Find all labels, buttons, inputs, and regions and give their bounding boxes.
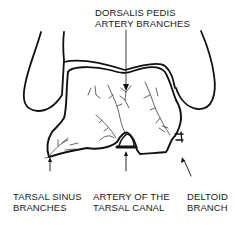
- talus-blood-supply-diagram: DORSALIS PEDIS ARTERY BRANCHES TARSAL SI…: [0, 0, 235, 228]
- talus-dome-outer: [64, 60, 175, 88]
- label-line: ARTERY OF THE: [93, 192, 170, 203]
- label-deltoid-branch: DELTOID BRANCH: [187, 192, 228, 213]
- fibula-outline: [24, 32, 64, 111]
- tibia-outline: [176, 31, 215, 109]
- leader-deltoid: [184, 160, 191, 176]
- arrow-tarsal-canal: [124, 151, 128, 156]
- label-line: TARSAL SINUS: [13, 192, 82, 203]
- label-dorsalis-pedis-artery-branches: DORSALIS PEDIS ARTERY BRANCHES: [95, 8, 190, 29]
- label-line: BRANCH: [187, 203, 228, 214]
- label-line: DORSALIS PEDIS: [95, 8, 190, 19]
- label-tarsal-sinus-branches: TARSAL SINUS BRANCHES: [13, 192, 82, 213]
- label-line: BRANCHES: [13, 203, 82, 214]
- talus-body-outline: [47, 72, 181, 157]
- label-line: DELTOID: [187, 192, 228, 203]
- talus-dome-inner: [68, 67, 176, 100]
- deltoid-branch-vessel: [175, 132, 183, 142]
- label-line: TARSAL CANAL: [93, 203, 170, 214]
- label-artery-of-tarsal-canal: ARTERY OF THE TARSAL CANAL: [93, 192, 170, 213]
- label-line: ARTERY BRANCHES: [95, 19, 190, 30]
